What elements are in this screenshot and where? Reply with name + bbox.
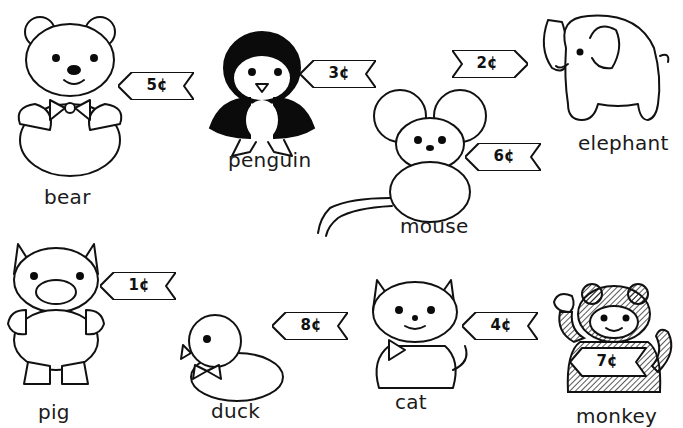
price-tag-elephant: 2¢ [452, 50, 528, 78]
pig-label: pig [38, 400, 70, 424]
price-cat: 4¢ [478, 318, 524, 333]
animal-pig: pig [4, 238, 114, 423]
price-mouse: 6¢ [481, 149, 527, 164]
cat-icon [365, 270, 475, 400]
pig-icon [4, 238, 114, 388]
animal-elephant: elephant [528, 8, 683, 158]
duck-icon [175, 305, 285, 405]
monkey-icon [548, 282, 683, 402]
animal-monkey: 7¢ monkey [548, 282, 683, 426]
price-penguin: 3¢ [316, 66, 362, 81]
penguin-icon [210, 28, 320, 158]
penguin-label: penguin [228, 148, 311, 172]
cat-label: cat [395, 390, 427, 414]
duck-label: duck [211, 399, 260, 423]
bear-label: bear [44, 185, 91, 209]
price-monkey: 7¢ [584, 354, 630, 369]
animal-penguin: penguin [210, 28, 320, 158]
animal-bear: bear [10, 12, 120, 182]
price-elephant: 2¢ [464, 56, 510, 71]
price-bear: 5¢ [134, 78, 180, 93]
price-tag-bear: 5¢ [118, 72, 194, 100]
price-pig: 1¢ [116, 278, 162, 293]
price-tag-duck: 8¢ [272, 312, 348, 340]
animal-cat: cat [365, 270, 475, 420]
monkey-label: monkey [576, 404, 657, 428]
price-duck: 8¢ [288, 318, 334, 333]
elephant-label: elephant [578, 131, 669, 155]
price-tag-mouse: 6¢ [465, 143, 541, 171]
price-tag-penguin: 3¢ [300, 60, 376, 88]
bear-icon [10, 12, 120, 182]
animal-duck: duck [175, 305, 285, 423]
mouse-label: mouse [400, 214, 469, 238]
price-tag-monkey: 7¢ [570, 348, 646, 376]
price-tag-pig: 1¢ [100, 272, 176, 300]
price-tag-cat: 4¢ [462, 312, 538, 340]
animal-mouse: mouse [310, 88, 485, 238]
